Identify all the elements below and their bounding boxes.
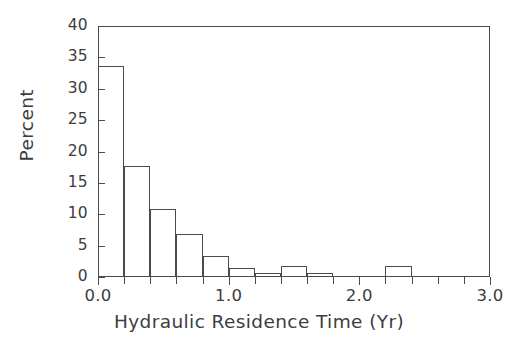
y-axis-tick-label: 20 bbox=[54, 144, 88, 160]
y-axis-title: Percent bbox=[18, 55, 37, 195]
x-axis-tick-label: 0.0 bbox=[68, 288, 128, 305]
x-axis-minor-tick bbox=[281, 277, 282, 284]
x-axis-minor-tick bbox=[464, 277, 465, 284]
x-axis-title: Hydraulic Residence Time (Yr) bbox=[0, 313, 518, 332]
x-axis-minor-tick bbox=[176, 277, 177, 284]
x-axis-major-tick bbox=[229, 277, 230, 285]
y-axis-tick-label: 30 bbox=[54, 81, 88, 97]
y-axis-tick-label: 0 bbox=[54, 269, 88, 285]
x-axis-major-tick bbox=[98, 277, 99, 285]
x-axis-minor-tick bbox=[333, 277, 334, 284]
histogram-bar bbox=[307, 273, 333, 277]
x-axis-tick-label: 2.0 bbox=[329, 288, 389, 305]
x-axis-minor-tick bbox=[255, 277, 256, 284]
x-axis-minor-tick bbox=[307, 277, 308, 284]
y-axis-tick bbox=[98, 26, 105, 27]
histogram-bar bbox=[124, 166, 150, 277]
x-axis-major-tick bbox=[359, 277, 360, 285]
y-axis-tick bbox=[98, 183, 105, 184]
y-axis-tick-label: 25 bbox=[54, 112, 88, 128]
y-axis-tick-label: 40 bbox=[54, 18, 88, 34]
histogram-bar bbox=[281, 266, 307, 277]
y-axis-tick-label: 35 bbox=[54, 49, 88, 65]
x-axis-major-tick bbox=[490, 277, 491, 285]
y-axis-tick bbox=[98, 57, 105, 58]
y-axis-tick-label: 10 bbox=[54, 206, 88, 222]
y-axis-tick bbox=[98, 120, 105, 121]
histogram-bar bbox=[176, 234, 202, 277]
x-axis-tick-label: 3.0 bbox=[460, 288, 518, 305]
y-axis-tick-label: 5 bbox=[54, 238, 88, 254]
histogram-bar bbox=[229, 268, 255, 277]
x-axis-minor-tick bbox=[150, 277, 151, 284]
histogram-bars bbox=[98, 26, 490, 277]
y-axis-tick bbox=[98, 246, 105, 247]
x-axis-minor-tick bbox=[203, 277, 204, 284]
x-axis-minor-tick bbox=[124, 277, 125, 284]
y-axis-tick bbox=[98, 214, 105, 215]
histogram-bar bbox=[150, 209, 176, 277]
x-axis-minor-tick bbox=[385, 277, 386, 284]
x-axis-minor-tick bbox=[438, 277, 439, 284]
y-axis-tick bbox=[98, 89, 105, 90]
x-axis-tick-label: 1.0 bbox=[199, 288, 259, 305]
histogram-bar bbox=[203, 256, 229, 277]
y-axis-tick bbox=[98, 152, 105, 153]
histogram-figure: 0510152025303540 0.01.02.03.0 Hydraulic … bbox=[0, 0, 518, 350]
histogram-bar bbox=[385, 266, 411, 277]
histogram-bar bbox=[255, 273, 281, 277]
y-axis-tick bbox=[98, 277, 105, 278]
y-axis-tick-label: 15 bbox=[54, 175, 88, 191]
x-axis-minor-tick bbox=[412, 277, 413, 284]
